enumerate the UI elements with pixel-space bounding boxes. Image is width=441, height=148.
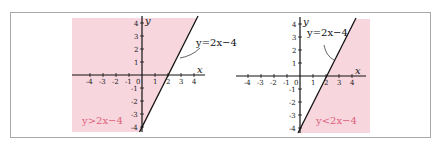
tick: 3 bbox=[179, 78, 183, 86]
tick: 4 bbox=[350, 79, 355, 87]
tick: 4 bbox=[134, 20, 139, 28]
y-axis-label: y bbox=[144, 15, 151, 26]
label-leader-line bbox=[180, 48, 200, 58]
left-graph: -4 -3 -2 -1 0 1 2 3 4 4 3 2 1 -1 -2 -3 -… bbox=[72, 15, 237, 132]
tick: -2 bbox=[112, 78, 119, 86]
tick: -3 bbox=[99, 78, 106, 86]
label-leader-line bbox=[324, 45, 334, 60]
tick: 1 bbox=[134, 59, 138, 67]
tick: -4 bbox=[244, 79, 251, 87]
tick: -3 bbox=[257, 79, 264, 87]
tick: 1 bbox=[311, 79, 315, 87]
tick: 2 bbox=[324, 79, 328, 87]
region-inequality-label: y<2x−4 bbox=[315, 115, 357, 126]
tick: 3 bbox=[134, 33, 138, 41]
tick: -4 bbox=[131, 124, 138, 132]
tick: 2 bbox=[292, 47, 296, 55]
tick: 3 bbox=[337, 79, 341, 87]
tick: 2 bbox=[134, 46, 138, 54]
tick: -3 bbox=[289, 112, 296, 120]
x-axis-label: x bbox=[355, 65, 361, 76]
tick: 4 bbox=[192, 78, 197, 86]
tick: 3 bbox=[292, 34, 296, 42]
right-graph: -4 -3 -2 -1 0 1 2 3 4 4 3 2 1 -1 -2 -3 -… bbox=[236, 16, 370, 133]
tick: -1 bbox=[131, 85, 138, 93]
tick: -2 bbox=[289, 99, 296, 107]
tick: -4 bbox=[289, 125, 296, 133]
region-inequality-label: y>2x−4 bbox=[81, 115, 123, 126]
tick: 4 bbox=[292, 21, 297, 29]
tick: -1 bbox=[289, 86, 296, 94]
line-equation-label: y=2x−4 bbox=[306, 27, 348, 38]
tick: 1 bbox=[153, 78, 157, 86]
x-axis-label: x bbox=[197, 64, 203, 75]
tick: -4 bbox=[86, 78, 93, 86]
tick: 2 bbox=[166, 78, 170, 86]
line-equation-label: y=2x−4 bbox=[195, 37, 237, 48]
tick: -3 bbox=[131, 111, 138, 119]
tick: -2 bbox=[131, 98, 138, 106]
inequality-graphs: -4 -3 -2 -1 0 1 2 3 4 4 3 2 1 -1 -2 -3 -… bbox=[0, 0, 441, 148]
y-axis-label: y bbox=[302, 16, 309, 27]
tick: -2 bbox=[270, 79, 277, 87]
tick: 1 bbox=[292, 60, 296, 68]
